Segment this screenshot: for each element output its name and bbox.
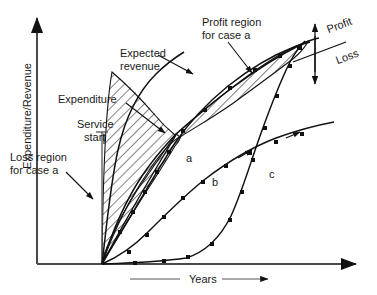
service-start-label-line2: start	[84, 131, 105, 143]
loss-region-label-line2: for case a	[10, 164, 58, 176]
loss-region-label-line1: Loss region	[10, 151, 67, 163]
curve-a-label: a	[186, 152, 192, 164]
chart-canvas	[0, 0, 377, 295]
profit-region-shape	[176, 41, 308, 137]
expected-revenue-label-line2: revenue	[120, 60, 160, 72]
x-axis-label: Years	[189, 273, 217, 285]
profit-region-label-line1: Profit region	[202, 16, 261, 28]
profit-region-label-line2: for case a	[202, 29, 250, 41]
service-start-label-line1: Service	[77, 118, 114, 130]
curve-c-label: c	[269, 168, 275, 180]
chart-figure: Expenditure/Revenue Years Expected reven…	[0, 0, 377, 295]
expected-revenue-label-line1: Expected	[120, 47, 166, 59]
curve-b-label: b	[212, 176, 218, 188]
expenditure-label: Expenditure	[58, 93, 117, 105]
